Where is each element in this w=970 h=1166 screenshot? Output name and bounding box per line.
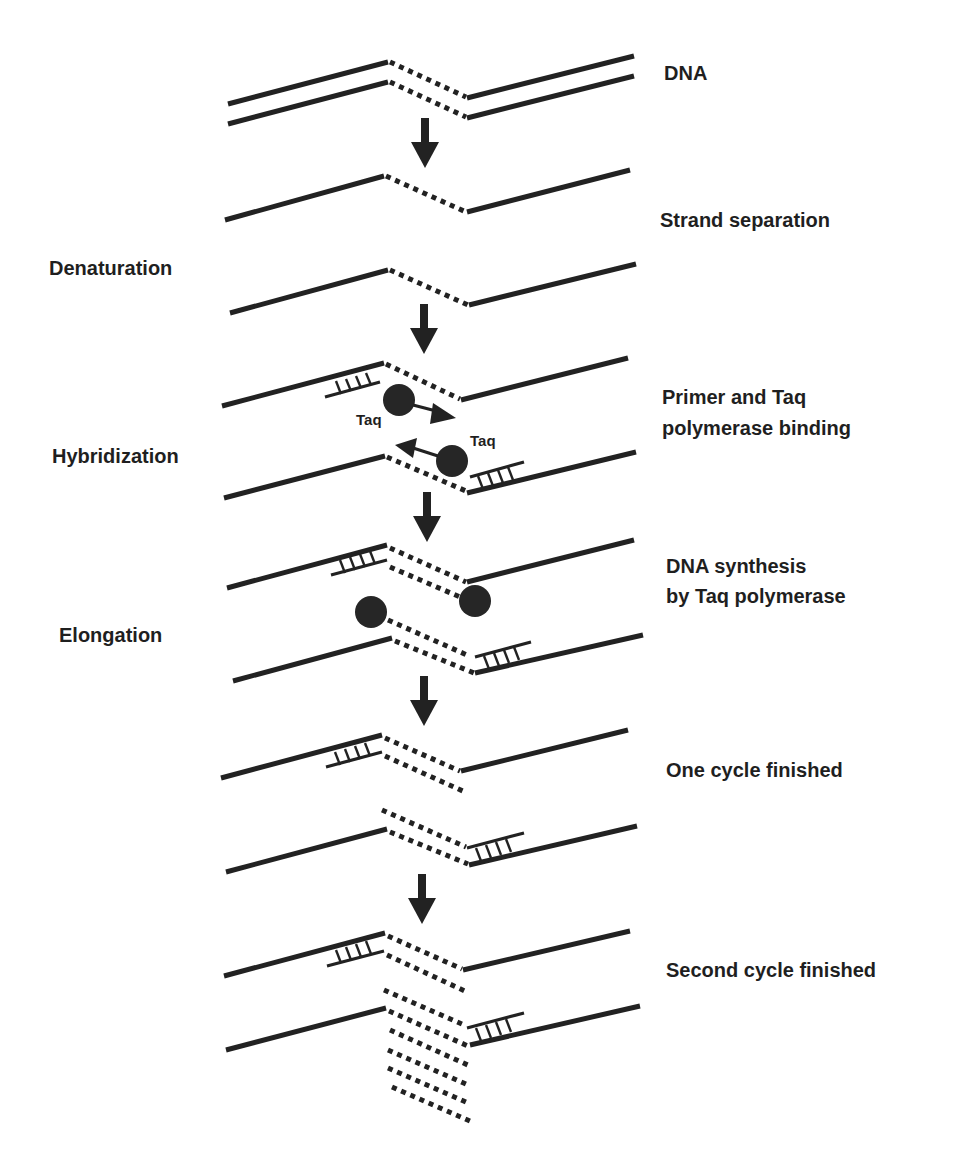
step-label-second-cycle: Second cycle finished	[666, 958, 876, 982]
separated-strands	[225, 170, 636, 313]
elongation-strands	[227, 540, 643, 681]
taq-polymerase-icon	[355, 596, 387, 628]
one-cycle-strands	[221, 730, 637, 872]
taq-polymerase-icon	[459, 585, 491, 617]
stage-label-hybridization: Hybridization	[52, 444, 179, 468]
down-arrow-icon	[408, 874, 436, 924]
down-arrow-icon	[413, 492, 441, 542]
taq-polymerase-icon	[383, 384, 415, 416]
down-arrow-icon	[410, 676, 438, 726]
second-cycle-strands	[224, 931, 640, 1122]
step-label-dna: DNA	[664, 61, 707, 85]
taq-polymerase-icon	[436, 445, 468, 477]
step-label-primer-binding: Primer and Taq	[662, 385, 806, 409]
down-arrow-icon	[411, 118, 439, 168]
step-label-synthesis: DNA synthesis	[666, 554, 806, 578]
stage-label-denaturation: Denaturation	[49, 256, 172, 280]
stage-label-elongation: Elongation	[59, 623, 162, 647]
pcr-diagram	[0, 0, 970, 1166]
step-label-one-cycle: One cycle finished	[666, 758, 843, 782]
primer-binding-strands	[222, 358, 636, 498]
dna-double-strand	[228, 56, 634, 124]
step-label-synthesis-line2: by Taq polymerase	[666, 584, 846, 608]
taq-label-bottom: Taq	[470, 432, 496, 449]
taq-label-top: Taq	[356, 411, 382, 428]
down-arrow-icon	[410, 304, 438, 354]
step-label-primer-binding-line2: polymerase binding	[662, 416, 851, 440]
step-label-strand-separation: Strand separation	[660, 208, 830, 232]
